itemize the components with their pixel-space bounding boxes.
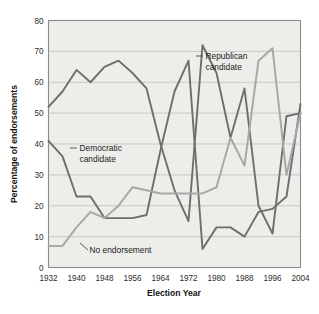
y-tick-0: 0 (39, 264, 44, 273)
y-tick-40: 40 (34, 140, 44, 149)
y-tick-80: 80 (34, 17, 44, 26)
y-axis-tick-labels: 01020304050607080 (34, 17, 44, 273)
x-tick-1932: 1932 (39, 274, 58, 283)
democratic-annotation-line2: candidate (80, 154, 117, 164)
x-tick-1972: 1972 (179, 274, 198, 283)
y-tick-50: 50 (34, 109, 44, 118)
no-endorsement-annotation: No endorsement (90, 245, 153, 255)
y-tick-10: 10 (34, 233, 44, 242)
endorsements-line-chart: 01020304050607080 1932194019481956196419… (0, 0, 319, 314)
x-tick-2004: 2004 (291, 274, 310, 283)
y-axis-title: Percentage of endorsements (9, 85, 19, 203)
y-tick-70: 70 (34, 47, 44, 56)
x-tick-1996: 1996 (263, 274, 282, 283)
x-tick-1940: 1940 (67, 274, 86, 283)
x-tick-1964: 1964 (151, 274, 170, 283)
y-tick-60: 60 (34, 78, 44, 87)
x-tick-1980: 1980 (207, 274, 226, 283)
republican-annotation-line1: Republican (206, 51, 248, 61)
democratic-annotation-line1: Democratic (80, 143, 122, 153)
y-tick-20: 20 (34, 202, 44, 211)
x-axis-title: Election Year (147, 288, 201, 298)
chart-container: 01020304050607080 1932194019481956196419… (0, 0, 319, 314)
y-tick-30: 30 (34, 171, 44, 180)
annotation-no-endorsement: No endorsement (80, 243, 152, 255)
x-tick-1956: 1956 (123, 274, 142, 283)
x-tick-1948: 1948 (95, 274, 114, 283)
x-tick-1988: 1988 (235, 274, 254, 283)
republican-annotation-line2: candidate (206, 62, 243, 72)
